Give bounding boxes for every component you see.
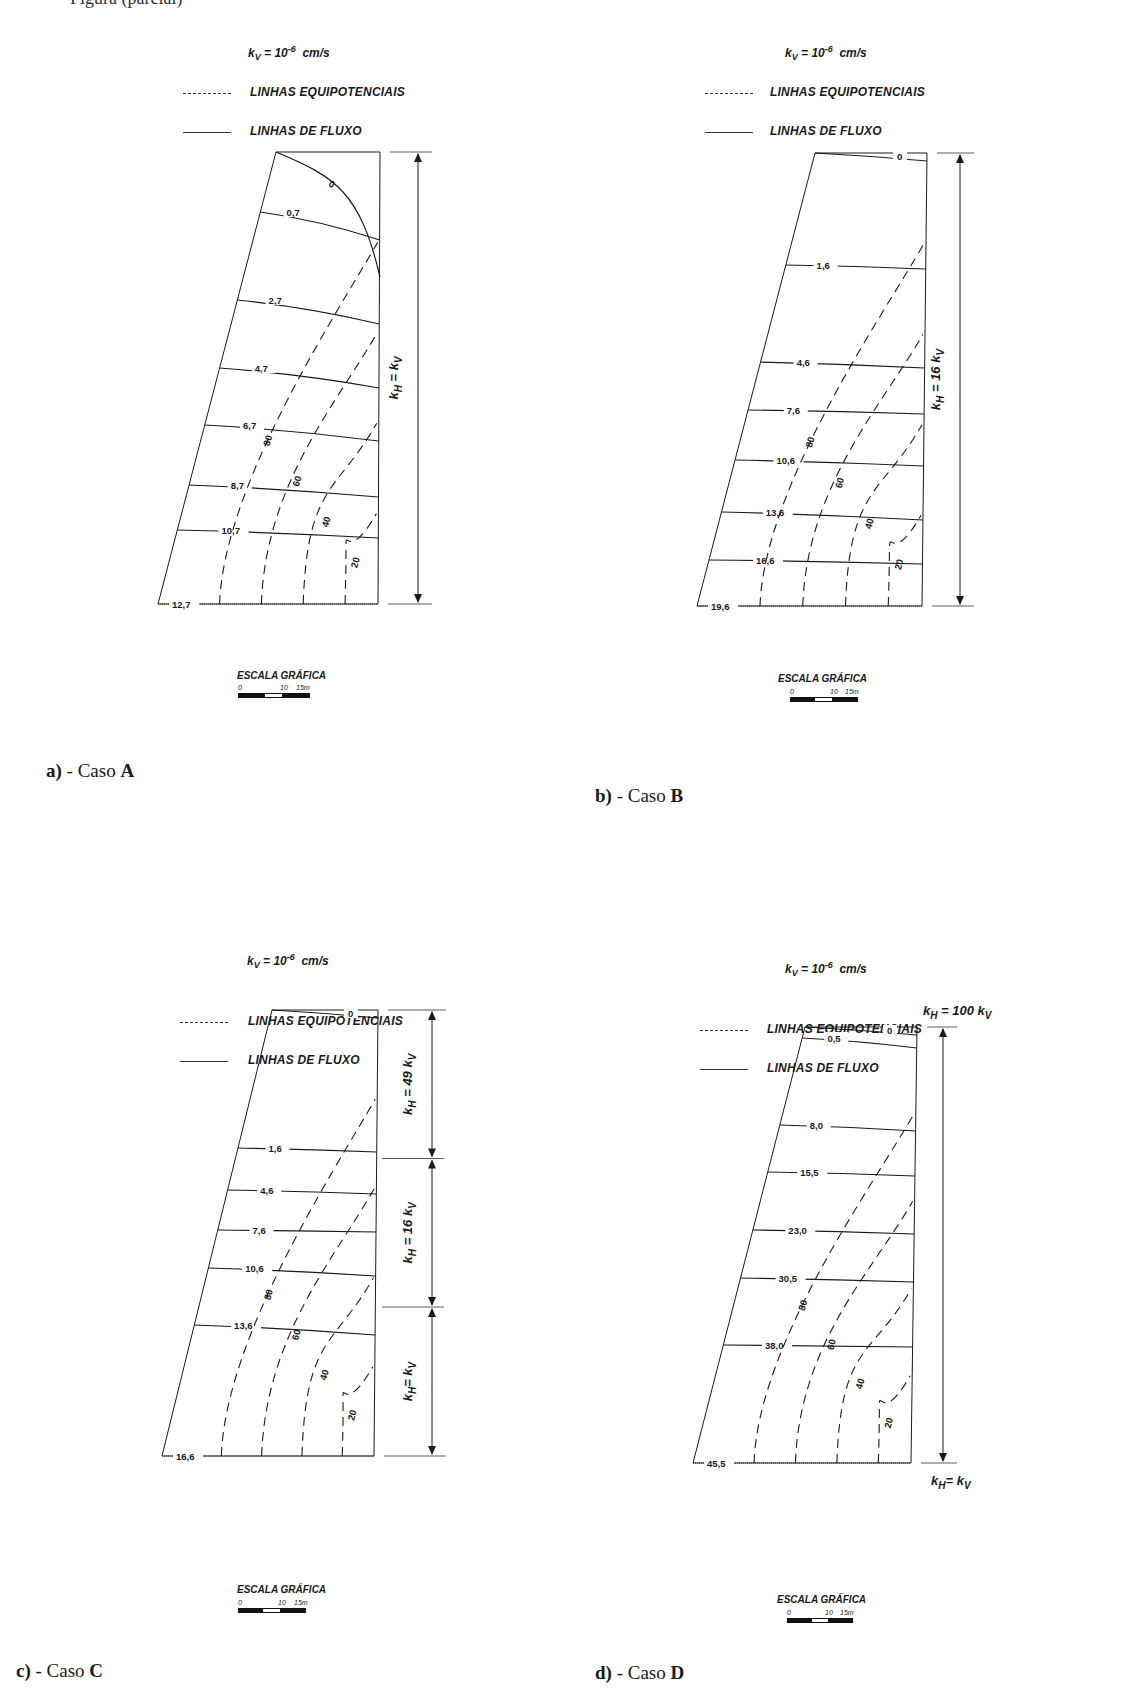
flow-line	[721, 512, 923, 520]
permeability-bottom-label: kH= kV	[931, 1473, 972, 1491]
caption-caso-c: c) - Caso C	[16, 1660, 103, 1682]
flow-line-label: 0,7	[287, 207, 300, 218]
flow-line-label: 23,0	[788, 1225, 807, 1236]
equipotential-label: 20	[348, 556, 361, 569]
flow-line	[177, 530, 378, 538]
flow-line	[228, 1190, 377, 1194]
arrowhead-up-icon	[939, 1028, 947, 1037]
flow-line-label: 2,7	[269, 295, 282, 306]
equipotential-label: 60	[833, 476, 846, 489]
flow-line-label: 16,6	[176, 1451, 195, 1462]
flow-line	[748, 410, 924, 414]
scale-title: ESCALA GRÁFICA	[777, 1594, 866, 1605]
flow-line	[815, 153, 927, 161]
scale-title: ESCALA GRÁFICA	[778, 673, 867, 684]
flow-line-label: 10,6	[245, 1263, 264, 1274]
flow-line-label: 4,6	[260, 1185, 273, 1196]
flow-line	[238, 1148, 377, 1152]
flow-line-label: 13,6	[766, 507, 785, 518]
permeability-zone-label: kH = 49 kV	[400, 1052, 418, 1115]
flow-line	[272, 1010, 378, 1018]
arrowhead-down-icon	[428, 1149, 436, 1158]
flow-line	[218, 1230, 376, 1232]
equipotential-line	[754, 1114, 914, 1463]
flow-line-label: 45,5	[707, 1458, 726, 1469]
scale-tick-0: 0	[238, 1599, 242, 1606]
equipotential-line	[760, 244, 924, 606]
flow-line	[761, 362, 925, 368]
flow-line	[768, 1172, 915, 1176]
flow-line-label: 38,0	[765, 1340, 784, 1351]
flow-line	[802, 1038, 917, 1048]
scale-tick-10: 10	[280, 684, 288, 691]
flow-line	[741, 1278, 914, 1282]
equipotential-label: 60	[290, 475, 303, 488]
flow-line	[780, 1125, 916, 1131]
arrowhead-up-icon	[956, 154, 964, 163]
flow-line	[194, 1325, 375, 1335]
equipotential-line	[837, 1289, 912, 1463]
scale-tick-15: 15m	[845, 688, 859, 695]
caption-caso-d: d) - Caso D	[595, 1662, 684, 1684]
permeability-zone-label: kH = 16 kV	[928, 348, 946, 411]
scale-tick-15: 15m	[294, 1599, 308, 1606]
equipotential-label: 40	[319, 515, 332, 528]
scale-tick-15: 15m	[296, 684, 310, 691]
scale-tick-10: 10	[830, 688, 838, 695]
flow-line	[753, 1230, 914, 1234]
flow-line	[189, 485, 378, 497]
flow-line-label: 0	[887, 1025, 892, 1036]
flow-line-label: 30,5	[779, 1273, 798, 1284]
flow-line-label: 15,5	[800, 1167, 819, 1178]
flow-line-label: 7,6	[253, 1225, 266, 1236]
flow-line-label: 1,6	[268, 1143, 281, 1154]
flow-line-label: 7,6	[787, 405, 800, 416]
equipotential-line	[846, 425, 923, 606]
arrowhead-up-icon	[428, 1160, 436, 1169]
flow-line-label: 0,5	[827, 1033, 841, 1044]
arrowhead-up-icon	[428, 1308, 436, 1317]
scale-tick-10: 10	[278, 1599, 286, 1606]
flow-net-d: 00,58,015,523,030,538,045,580604020kH = …	[565, 900, 1130, 1689]
equipotential-line	[303, 423, 377, 604]
panel-caso-c: kV = 10-6 cm/s LINHAS EQUIPOTENCIAIS LIN…	[0, 900, 565, 1689]
permeability-zone-label: kH= kV	[400, 1360, 418, 1401]
equipotential-line	[221, 1099, 375, 1456]
scale-title: ESCALA GRÁFICA	[237, 670, 326, 681]
scale-tick-0: 0	[787, 1609, 791, 1616]
equipotential-line	[803, 334, 923, 606]
scale-bar	[787, 1618, 853, 1623]
permeability-zone-label: kH = kV	[386, 355, 404, 400]
equipotential-label: 80	[803, 435, 816, 448]
equipotential-line	[302, 1278, 374, 1456]
arrowhead-up-icon	[414, 153, 422, 162]
equipotential-line	[795, 1201, 912, 1463]
flow-line	[237, 300, 379, 324]
flow-line	[208, 1268, 375, 1276]
equipotential-label: 20	[882, 1416, 895, 1429]
flow-line	[805, 1027, 917, 1035]
flow-line-label: 16,6	[756, 555, 775, 566]
scale-tick-10: 10	[825, 1609, 833, 1616]
panel-caso-b: kV = 10-6 cm/s LINHAS EQUIPOTENCIAIS LIN…	[565, 0, 1130, 800]
caption-caso-b: b) - Caso B	[595, 785, 683, 807]
arrowhead-down-icon	[428, 1297, 436, 1306]
equipotential-label: 40	[853, 1377, 866, 1390]
flow-line	[205, 425, 379, 441]
permeability-zone-label: kH = 16 kV	[400, 1201, 418, 1264]
equipotential-label: 80	[261, 1288, 274, 1301]
scale-bar	[238, 693, 310, 698]
flow-line-label: 0	[348, 1008, 353, 1019]
scale-bar	[238, 1608, 306, 1613]
scale-tick-15: 15m	[840, 1609, 854, 1616]
flow-line-label: 4,7	[255, 363, 268, 374]
arrowhead-down-icon	[939, 1453, 947, 1462]
equipotential-label: 20	[345, 1408, 358, 1421]
equipotential-label: 40	[862, 517, 875, 530]
flow-line	[709, 560, 923, 564]
equipotential-label: 40	[317, 1368, 330, 1381]
permeability-top-label: kH = 100 kV	[923, 1003, 993, 1021]
flow-line	[260, 212, 379, 240]
flow-line-label: 10,7	[222, 525, 241, 536]
caption-caso-a: a) - Caso A	[46, 760, 134, 782]
